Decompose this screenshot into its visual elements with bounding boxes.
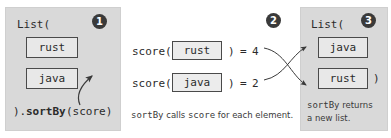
output-caption-mono-1: sortBy <box>307 100 340 110</box>
input-list-header: List( <box>17 18 50 31</box>
score-row-1-arg-rust: rust <box>172 41 222 60</box>
output-list-caption-line-2: a new list. <box>307 113 350 124</box>
diagram-canvas: List( rust java ). sortBy (score) 1 scor… <box>0 0 391 138</box>
badge-step-1: 1 <box>92 14 107 29</box>
score-row-1-close: ) <box>228 45 235 58</box>
output-caption-plain-1: returns <box>340 100 373 110</box>
input-item-java: java <box>26 68 78 89</box>
input-footer-prefix: ). <box>13 105 26 118</box>
score-row-1-fn: score( <box>132 45 172 58</box>
score-caption-mono-2: score <box>188 110 215 120</box>
input-footer-suffix: (score) <box>66 105 112 118</box>
score-row-2-fn: score( <box>132 77 172 90</box>
score-row-1-equals: = <box>240 45 247 58</box>
score-caption-plain-1: calls <box>164 110 188 120</box>
score-row-1-result: 4 <box>252 45 259 58</box>
score-caption-plain-2: for each element. <box>215 110 293 120</box>
score-row-2-equals: = <box>240 77 247 90</box>
input-footer-method: sortBy <box>26 105 66 118</box>
output-item-rust: rust <box>318 68 368 89</box>
input-item-rust: rust <box>26 37 78 58</box>
score-row-2-arg-java: java <box>172 73 222 92</box>
output-list-header: List( <box>311 18 344 31</box>
badge-step-2: 2 <box>266 13 281 28</box>
output-close-paren: ) <box>373 72 380 85</box>
badge-step-3: 3 <box>361 13 376 28</box>
score-row-2-close: ) <box>228 77 235 90</box>
score-evaluation-caption: sortBy calls score for each element. <box>131 110 293 121</box>
output-list-caption-line-1: sortBy returns <box>307 100 373 111</box>
output-item-java: java <box>318 37 368 58</box>
score-row-2-result: 2 <box>252 77 259 90</box>
score-caption-mono-1: sortBy <box>131 110 164 120</box>
